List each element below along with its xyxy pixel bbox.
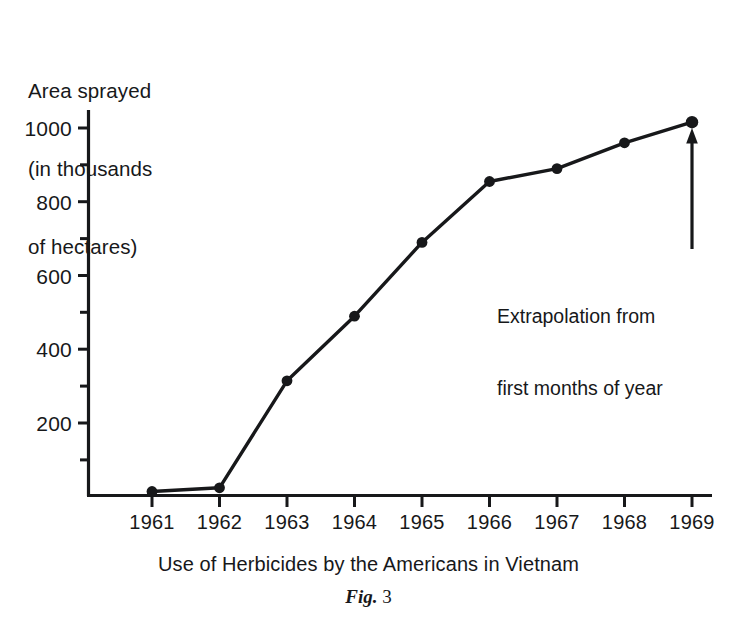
data-point — [484, 176, 495, 187]
data-point — [686, 116, 698, 128]
data-point — [619, 137, 630, 148]
annotation-line-1: Extrapolation from — [497, 304, 663, 328]
y-tick-label-400: 400 — [0, 339, 72, 360]
x-tick-label-1963: 1963 — [255, 512, 319, 532]
y-tick-label-600: 600 — [0, 266, 72, 287]
annotation-line-2: first months of year — [497, 376, 663, 400]
y-tick-label-1000: 1000 — [0, 118, 72, 139]
x-tick-label-1969: 1969 — [660, 512, 724, 532]
figure-number-caption: Fig. 3 — [0, 586, 737, 608]
x-tick-label-1962: 1962 — [188, 512, 252, 532]
data-point — [349, 311, 360, 322]
x-tick-label-1967: 1967 — [525, 512, 589, 532]
y-tick-label-200: 200 — [0, 413, 72, 434]
annotation-arrow-icon — [686, 128, 698, 249]
x-tick-label-1968: 1968 — [593, 512, 657, 532]
data-point — [214, 482, 225, 493]
figure-number: 3 — [377, 586, 391, 607]
x-tick-label-1964: 1964 — [323, 512, 387, 532]
figure-chart: Area sprayed (in thousands of hectares) — [0, 0, 737, 623]
data-point — [417, 237, 428, 248]
data-point — [147, 486, 158, 497]
y-tick-label-800: 800 — [0, 192, 72, 213]
annotation-text: Extrapolation from first months of year — [497, 256, 663, 448]
x-tick-label-1965: 1965 — [390, 512, 454, 532]
x-tick-label-1966: 1966 — [458, 512, 522, 532]
x-axis-ticks — [152, 496, 692, 507]
x-tick-label-1961: 1961 — [120, 512, 184, 532]
figure-caption: Use of Herbicides by the Americans in Vi… — [0, 553, 737, 576]
data-point — [282, 375, 293, 386]
figure-label: Fig. — [345, 586, 377, 607]
data-point — [552, 163, 563, 174]
